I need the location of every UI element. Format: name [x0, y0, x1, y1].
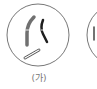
cell-membrane-2	[87, 4, 97, 66]
centromere-dark	[41, 29, 43, 31]
cell-partial	[87, 4, 97, 66]
chromosome-dark	[42, 20, 48, 42]
cell-ga	[7, 4, 69, 66]
cell-membrane	[7, 4, 69, 66]
chromosome-small-diagonal	[25, 50, 39, 58]
chromosome-gray-long	[27, 17, 34, 45]
cell-label-ga: (가)	[22, 71, 56, 84]
